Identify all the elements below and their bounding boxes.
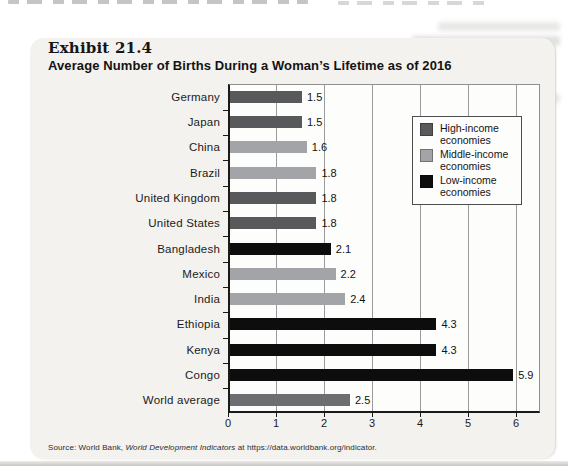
- bar-row: Bangladesh2.1: [38, 236, 540, 261]
- legend-label: High-incomeeconomies: [440, 122, 499, 146]
- bar-row: India2.4: [38, 287, 540, 312]
- bar-row: World average2.5: [38, 388, 540, 413]
- category-label: India: [38, 293, 228, 305]
- bar-united-states: [230, 217, 316, 229]
- bar-kenya: [230, 344, 436, 356]
- x-axis-tick-labels: 0123456: [38, 417, 540, 431]
- category-label: Kenya: [38, 344, 228, 356]
- value-label: 4.3: [441, 344, 456, 356]
- value-label: 2.4: [350, 293, 365, 305]
- bar-track: 5.9: [230, 369, 533, 381]
- bar-track: 2.5: [230, 394, 370, 406]
- category-label: Brazil: [38, 167, 228, 179]
- chart-title: Average Number of Births During a Woman’…: [48, 58, 452, 73]
- x-tick-label: 3: [362, 417, 382, 429]
- bar-track: 1.5: [230, 91, 322, 103]
- legend-entry: Middle-incomeeconomies: [420, 148, 515, 172]
- legend-label: Low-incomeeconomies: [440, 174, 497, 198]
- cropped-text-artifact: [338, 1, 488, 5]
- bar-row: Germany1.5: [38, 84, 540, 109]
- category-label: Japan: [38, 116, 228, 128]
- x-tick-label: 0: [218, 417, 238, 429]
- legend-entry: High-incomeeconomies: [420, 122, 515, 146]
- bar-row: Congo5.9: [38, 362, 540, 387]
- legend-entry: Low-incomeeconomies: [420, 174, 515, 198]
- source-prefix: Source: World Bank,: [48, 443, 125, 452]
- value-label: 1.8: [321, 192, 336, 204]
- bar-row: Kenya4.3: [38, 337, 540, 362]
- x-tick-label: 6: [506, 417, 526, 429]
- bar-india: [230, 293, 345, 305]
- x-tick-label: 5: [458, 417, 478, 429]
- bar-germany: [230, 91, 302, 103]
- book-page: Exhibit 21.4 Average Number of Births Du…: [0, 0, 568, 466]
- legend-label: Middle-incomeeconomies: [440, 148, 508, 172]
- category-label: Mexico: [38, 268, 228, 280]
- bar-row: Ethiopia4.3: [38, 312, 540, 337]
- bar-row: United States1.8: [38, 211, 540, 236]
- x-tick-label: 4: [410, 417, 430, 429]
- cropped-text-artifact: [8, 0, 308, 4]
- bar-united-kingdom: [230, 192, 316, 204]
- bar-track: 1.8: [230, 192, 337, 204]
- x-tick-label: 2: [314, 417, 334, 429]
- bar-mexico: [230, 268, 336, 280]
- middle-income-swatch-icon: [420, 149, 433, 162]
- source-work-title: World Development Indicators: [125, 443, 235, 452]
- value-label: 2.1: [336, 243, 351, 255]
- chart-legend: High-incomeeconomiesMiddle-incomeeconomi…: [412, 116, 522, 205]
- value-label: 2.2: [341, 268, 356, 280]
- x-tick-label: 1: [266, 417, 286, 429]
- bar-world-average: [230, 394, 350, 406]
- page-edge-shadow: [0, 461, 568, 466]
- category-label: United States: [38, 217, 228, 229]
- value-label: 2.5: [355, 394, 370, 406]
- bar-japan: [230, 116, 302, 128]
- value-label: 4.3: [441, 318, 456, 330]
- bar-track: 2.4: [230, 293, 365, 305]
- value-label: 1.8: [321, 167, 336, 179]
- value-label: 1.8: [321, 217, 336, 229]
- print-bleed-artifact: [438, 22, 560, 31]
- source-suffix: at https://data.worldbank.org/indicator.: [235, 443, 377, 452]
- bar-track: 1.5: [230, 116, 322, 128]
- value-label: 1.6: [312, 141, 327, 153]
- bar-ethiopia: [230, 318, 436, 330]
- category-label: Bangladesh: [38, 243, 228, 255]
- source-note: Source: World Bank, World Development In…: [48, 443, 377, 452]
- bar-track: 2.1: [230, 243, 351, 255]
- bar-track: 4.3: [230, 318, 457, 330]
- bar-bangladesh: [230, 243, 331, 255]
- category-label: Congo: [38, 369, 228, 381]
- category-label: World average: [38, 394, 228, 406]
- low-income-swatch-icon: [420, 175, 433, 188]
- value-label: 1.5: [307, 116, 322, 128]
- bar-row: Mexico2.2: [38, 261, 540, 286]
- exhibit-label: Exhibit 21.4: [48, 39, 152, 57]
- category-label: Germany: [38, 91, 228, 103]
- bar-track: 1.8: [230, 217, 337, 229]
- high-income-swatch-icon: [420, 123, 433, 136]
- value-label: 5.9: [518, 369, 533, 381]
- bar-track: 2.2: [230, 268, 356, 280]
- bar-congo: [230, 369, 513, 381]
- bar-brazil: [230, 167, 316, 179]
- bar-track: 4.3: [230, 344, 457, 356]
- value-label: 1.5: [307, 91, 322, 103]
- bar-track: 1.8: [230, 167, 337, 179]
- category-label: China: [38, 141, 228, 153]
- bar-track: 1.6: [230, 141, 327, 153]
- bar-china: [230, 141, 307, 153]
- category-label: Ethiopia: [38, 318, 228, 330]
- category-label: United Kingdom: [38, 192, 228, 204]
